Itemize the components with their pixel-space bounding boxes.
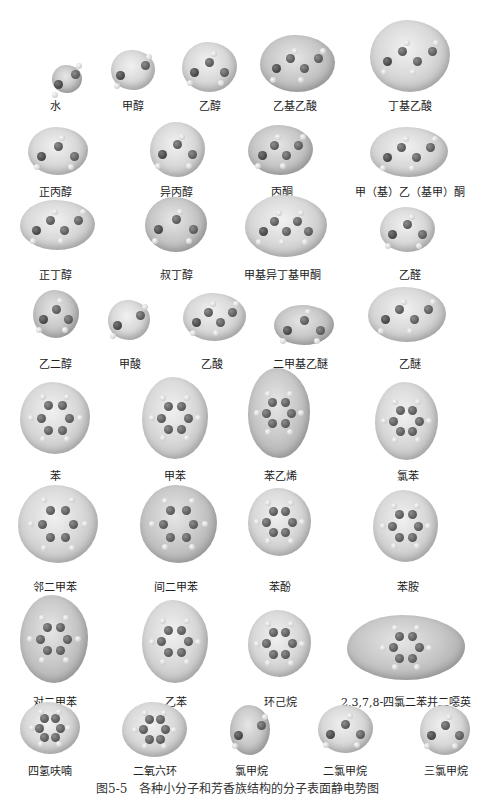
carbon-atom	[145, 735, 154, 744]
molecule-label: 甲（基）乙（基甲）酮	[355, 183, 465, 199]
hydrogen-atom	[354, 742, 360, 748]
carbon-atom	[288, 518, 297, 527]
electron-density-surface	[150, 122, 205, 177]
molecule-label: 苯胺	[397, 578, 419, 594]
carbon-atom	[269, 650, 278, 659]
electron-density-surface	[145, 197, 207, 252]
hydrogen-atom	[62, 327, 68, 333]
electron-density-surface	[260, 35, 335, 92]
carbon-atom	[46, 506, 55, 515]
carbon-atom	[136, 311, 145, 320]
hydrogen-atom	[288, 538, 294, 544]
hydrogen-atom	[186, 163, 192, 169]
carbon-atom	[282, 151, 291, 160]
oxygen-atom	[427, 731, 436, 740]
carbon-atom	[184, 637, 193, 646]
hydrogen-atom	[142, 743, 148, 749]
hydrogen-atom	[298, 77, 304, 83]
hydrogen-atom	[380, 645, 386, 651]
molecule-label: 乙醇	[199, 97, 221, 113]
oxygen-atom	[54, 80, 63, 89]
hydrogen-atom	[179, 134, 185, 140]
carbon-atom	[270, 141, 279, 150]
carbon-atom	[177, 425, 186, 434]
hydrogen-atom	[409, 214, 415, 220]
hydrogen-atom	[184, 659, 190, 665]
hydrogen-atom	[279, 239, 285, 245]
carbon-atom	[428, 47, 437, 56]
carbon-atom	[145, 715, 154, 724]
hydrogen-atom	[305, 309, 311, 315]
hydrogen-atom	[69, 545, 75, 551]
hydrogen-atom	[58, 238, 64, 244]
carbon-atom	[269, 507, 278, 516]
carbon-atom	[281, 419, 290, 428]
hydrogen-atom	[75, 636, 81, 642]
hydrogen-atom	[416, 243, 422, 249]
oxygen-atom	[383, 57, 392, 66]
hydrogen-atom	[114, 83, 120, 89]
carbon-atom	[414, 522, 423, 531]
oxygen-atom	[158, 150, 167, 159]
hydrogen-atom	[432, 136, 438, 142]
molecule-label: 三氯甲烷	[424, 762, 468, 778]
hydrogen-atom	[184, 395, 190, 401]
hydrogen-atom	[381, 69, 387, 75]
hydrogen-atom	[190, 330, 196, 336]
molecule-label: 乙二醇	[39, 355, 72, 371]
carbon-atom	[172, 215, 181, 224]
hydrogen-atom	[391, 543, 397, 549]
carbon-atom	[159, 520, 168, 529]
hydrogen-atom	[57, 298, 63, 304]
oxygen-atom	[258, 151, 267, 160]
molecule-label: 丁基乙酸	[388, 97, 432, 113]
molecule-label: 正丙醇	[39, 183, 72, 199]
carbon-atom	[184, 414, 193, 423]
hydrogen-atom	[142, 304, 148, 310]
carbon-atom	[408, 632, 417, 641]
hydrogen-atom	[110, 333, 116, 339]
hydrogen-atom	[41, 545, 47, 551]
molecule-label: 苯乙烯	[264, 467, 297, 483]
carbon-atom	[37, 414, 46, 423]
carbon-atom	[228, 308, 237, 317]
carbon-atom	[43, 646, 52, 655]
hydrogen-atom	[149, 521, 155, 527]
carbon-atom	[44, 401, 53, 410]
carbon-atom	[403, 220, 412, 229]
hydrogen-atom	[63, 657, 69, 663]
carbon-atom	[314, 54, 323, 63]
carbon-atom	[268, 398, 277, 407]
hydrogen-atom	[149, 639, 155, 645]
hydrogen-atom	[280, 338, 286, 344]
carbon-atom	[164, 626, 173, 635]
carbon-atom	[156, 735, 165, 744]
hydrogen-atom	[380, 523, 386, 529]
hydrogen-atom	[265, 429, 271, 435]
carbon-atom	[182, 506, 191, 515]
hydrogen-atom	[347, 713, 353, 719]
hydrogen-atom	[184, 435, 190, 441]
hydrogen-atom	[320, 48, 326, 54]
carbon-atom	[157, 414, 166, 423]
hydrogen-atom	[314, 338, 320, 344]
carbon-atom	[281, 507, 290, 516]
carbon-atom	[156, 715, 165, 724]
carbon-atom	[189, 225, 198, 234]
molecule-label: 氯甲烷	[235, 762, 268, 778]
carbon-atom	[205, 58, 214, 67]
hydrogen-atom	[52, 209, 58, 215]
hydrogen-atom	[218, 80, 224, 86]
hydrogen-atom	[378, 328, 384, 334]
carbon-atom	[220, 68, 229, 77]
carbon-atom	[58, 426, 67, 435]
molecule-label: 甲苯	[164, 467, 186, 483]
molecule-label: 四氢呋喃	[28, 762, 72, 778]
carbon-atom	[389, 417, 398, 426]
hydrogen-atom	[299, 641, 305, 647]
hydrogen-atom	[452, 743, 458, 749]
carbon-atom	[52, 305, 61, 314]
hydrogen-atom	[160, 659, 166, 665]
carbon-atom	[257, 721, 266, 730]
hydrogen-atom	[161, 710, 167, 716]
